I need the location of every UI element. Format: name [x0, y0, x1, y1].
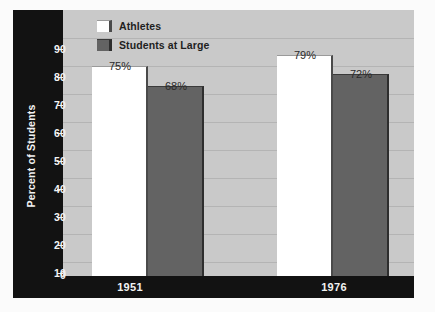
bar-chart-figure: 75% 68% 79% 72% 90 80 70 60 50 40 30 20 … [0, 0, 435, 312]
bar-value-athletes-1976: 79% [277, 49, 333, 61]
y-tick-mark [57, 49, 63, 50]
bar-athletes-1951 [92, 66, 148, 276]
y-tick-mark [57, 161, 63, 162]
y-tick-mark [57, 105, 63, 106]
bar-value-students-1951: 68% [148, 80, 204, 92]
y-tick-mark [57, 245, 63, 246]
white-swatch-icon [97, 20, 112, 32]
bar-students-1976 [333, 74, 389, 276]
x-category-label-1976: 1976 [289, 281, 379, 293]
y-tick-mark [57, 189, 63, 190]
legend-label-students-at-large: Students at Large [119, 39, 209, 51]
legend-item-athletes: Athletes [97, 20, 209, 32]
bar-value-students-1976: 72% [333, 68, 389, 80]
bar-athletes-1976 [277, 55, 333, 276]
y-tick-mark [57, 133, 63, 134]
y-tick-label-0: 0 [26, 270, 66, 280]
bar-students-1951 [148, 86, 204, 276]
y-axis-title: Percent of Students [25, 81, 37, 231]
chart-legend: Athletes Students at Large [97, 20, 209, 51]
y-tick-mark [57, 77, 63, 78]
legend-item-students-at-large: Students at Large [97, 39, 209, 51]
y-tick-mark [57, 217, 63, 218]
x-category-label-1951: 1951 [85, 281, 175, 293]
bar-value-athletes-1951: 75% [92, 60, 148, 72]
gray-swatch-icon [97, 39, 112, 51]
legend-label-athletes: Athletes [119, 20, 161, 32]
